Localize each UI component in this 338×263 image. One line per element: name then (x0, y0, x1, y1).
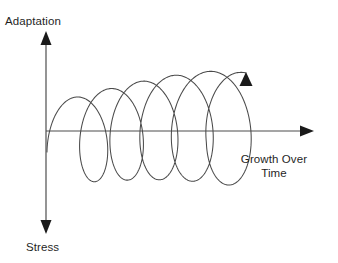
axis-label-growth-over-time: Growth Over Time (232, 152, 316, 180)
horizontal-axis-right-arrowhead (300, 126, 314, 137)
vertical-axis-down-arrowhead (41, 220, 52, 234)
axis-label-growth-line2: Time (232, 166, 316, 180)
growth-spiral-path (47, 71, 251, 185)
spiral-diagram-canvas: Adaptation Stress Growth Over Time (0, 0, 338, 263)
growth-spiral (47, 71, 253, 185)
axis-label-stress: Stress (26, 240, 59, 254)
diagram-figure (0, 0, 338, 263)
axis-label-adaptation: Adaptation (5, 14, 61, 28)
growth-spiral-arrowhead (240, 72, 253, 86)
horizontal-axis (46, 126, 314, 137)
vertical-axis-up-arrowhead (41, 31, 52, 45)
vertical-axis (41, 31, 52, 234)
axis-label-growth-line1: Growth Over (232, 152, 316, 166)
